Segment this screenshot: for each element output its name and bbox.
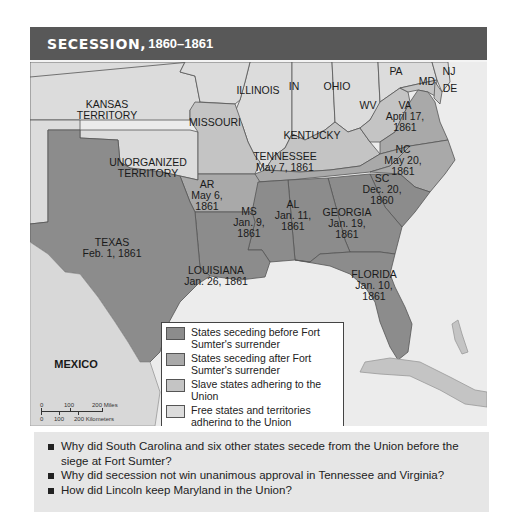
label-missouri: MISSOURI [189,117,241,129]
question-text: How did Lincoln keep Maryland in the Uni… [61,483,292,498]
label-mexico: MEXICO [54,359,97,371]
scale-km-0: 0 [40,416,43,422]
label-texas-date: Feb. 1, 1861 [83,248,142,260]
scale-miles-200: 200 Miles [92,402,118,408]
label-illinois: ILLINOIS [236,85,279,97]
secession-map: KANSAS TERRITORY MISSOURI ILLINOIS IN OH… [30,60,487,426]
legend-item-free-union: Free states and territories adhering to … [166,404,339,426]
label-de: DE [443,83,458,95]
question-item: Why did South Carolina and six other sta… [48,439,489,468]
scale-km-200: 200 Kilometers [74,416,114,422]
scale-line [41,411,103,412]
scale-tick [78,411,79,415]
label-sc-year: 1860 [370,195,393,207]
label-al-year: 1861 [281,221,304,233]
label-nj: NJ [443,66,456,78]
scale-tick [59,411,60,415]
scale-miles-100: 100 [64,402,74,408]
bahamas [452,320,468,354]
scale-tick [41,408,42,415]
question-item: Why did secession not win unanimous appr… [48,468,489,483]
legend-item-slave-union: Slave states adhering to the Union [166,378,339,402]
legend-item-seceding-after: States seceding after Fort Sumter's surr… [166,352,339,376]
legend-swatch-medium [166,353,185,366]
scale-bar: 0 100 200 Miles 0 100 200 Kilometers [40,402,145,424]
map-figure: SECESSION, 1860–1861 [30,27,487,426]
label-ohio: OHIO [324,81,351,93]
legend-swatch-lightest [166,405,185,418]
title-bar: SECESSION, 1860–1861 [30,27,487,60]
label-kansas-territory: TERRITORY [77,110,137,122]
bullet-icon [48,488,54,494]
legend-label: Free states and territories adhering to … [191,404,339,426]
scale-km-100: 100 [54,416,64,422]
question-text: Why did South Carolina and six other sta… [61,439,489,468]
label-tennessee-date: May 7, 1861 [256,162,314,174]
figure-title-years: 1860–1861 [148,36,213,51]
label-pa: PA [389,66,402,78]
label-unorganized-territory: TERRITORY [118,168,178,180]
legend-label: States seceding before Fort Sumter's sur… [191,326,339,350]
discussion-questions: Why did South Carolina and six other sta… [34,432,489,512]
cuba [360,358,487,407]
bullet-icon [48,473,54,479]
map-legend: States seceding before Fort Sumter's sur… [161,322,344,426]
question-item: How did Lincoln keep Maryland in the Uni… [48,483,489,498]
figure-title: SECESSION, [47,36,146,52]
label-nc-year: 1861 [391,166,414,178]
label-georgia-year: 1861 [335,229,358,241]
legend-label: States seceding after Fort Sumter's surr… [191,352,339,376]
scale-tick [102,408,103,412]
label-ar-year: 1861 [195,201,218,213]
legend-swatch-dark [166,327,185,340]
label-md: MD [419,76,435,88]
label-wv: WV [360,100,377,112]
question-text: Why did secession not win unanimous appr… [61,468,444,483]
label-louisiana-date: Jan. 26, 1861 [184,276,248,288]
label-va-year: 1861 [393,122,416,134]
scale-tick [70,408,71,412]
label-indiana: IN [289,81,300,93]
label-kentucky: KENTUCKY [283,130,340,142]
legend-label: Slave states adhering to the Union [191,378,339,402]
legend-swatch-light [166,379,185,392]
bullet-icon [48,444,54,450]
legend-item-seceding-before: States seceding before Fort Sumter's sur… [166,326,339,350]
label-ms-year: 1861 [237,228,260,240]
label-florida-year: 1861 [362,291,385,303]
